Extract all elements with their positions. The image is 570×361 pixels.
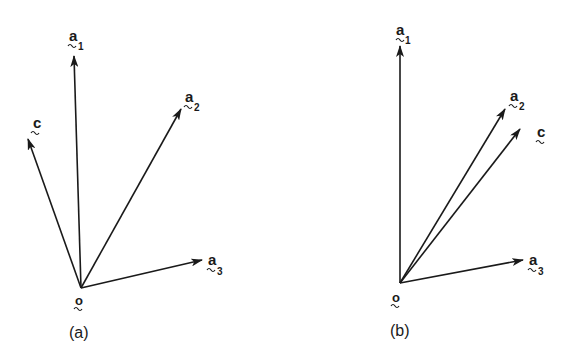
label-a2-base: a xyxy=(510,87,519,104)
label-a3-panel-a: a 3 xyxy=(207,251,223,277)
tilde-underline xyxy=(396,39,404,42)
label-a2-subscript: 2 xyxy=(194,102,200,113)
label-c-base: c xyxy=(537,123,545,140)
label-origin-panel-a: o xyxy=(74,293,83,311)
label-a3-base: a xyxy=(208,251,217,268)
vector-a2-panel-b xyxy=(400,109,505,283)
label-a1-panel-b: a 1 xyxy=(396,21,411,46)
caption-a: (a) xyxy=(69,324,89,341)
tilde-underline xyxy=(207,269,215,272)
tilde-underline xyxy=(509,105,517,108)
vector-a2-panel-a xyxy=(81,109,181,288)
label-o-base: o xyxy=(75,293,83,308)
vector-c-panel-a xyxy=(28,139,81,288)
tilde-underline xyxy=(528,269,536,272)
caption-b: (b) xyxy=(390,322,410,339)
vector-a3-panel-a xyxy=(81,260,202,288)
label-a2-panel-a: a 2 xyxy=(184,88,200,113)
tilde-underline xyxy=(536,141,544,144)
label-a3-base: a xyxy=(529,251,538,268)
vector-a1-panel-a xyxy=(74,56,81,288)
panel-a: a 1 a 2 c a 3 o (a) xyxy=(28,27,223,341)
tilde-underline xyxy=(31,132,39,135)
label-c-panel-a: c xyxy=(31,114,41,135)
label-a2-base: a xyxy=(185,88,194,105)
label-a1-panel-a: a 1 xyxy=(68,27,84,52)
label-a1-subscript: 1 xyxy=(78,41,84,52)
label-c-panel-b: c xyxy=(536,123,545,144)
label-a1-base: a xyxy=(396,21,405,38)
vector-cone-diagram: a 1 a 2 c a 3 o (a) xyxy=(0,0,570,361)
label-a1-base: a xyxy=(69,27,78,44)
label-a2-panel-b: a 2 xyxy=(509,87,525,112)
vector-a3-panel-b xyxy=(400,260,523,283)
label-o-base: o xyxy=(392,290,400,305)
label-c-base: c xyxy=(33,114,41,131)
panel-b: a 1 a 2 c a 3 o (b) xyxy=(390,21,545,339)
label-a2-subscript: 2 xyxy=(519,101,525,112)
tilde-underline xyxy=(184,106,192,109)
label-a3-subscript: 3 xyxy=(217,266,223,277)
vector-c-panel-b xyxy=(400,129,520,283)
tilde-underline xyxy=(68,45,76,48)
label-a3-subscript: 3 xyxy=(538,266,544,277)
label-origin-panel-b: o xyxy=(391,290,400,308)
label-a1-subscript: 1 xyxy=(405,35,411,46)
label-a3-panel-b: a 3 xyxy=(528,251,544,277)
